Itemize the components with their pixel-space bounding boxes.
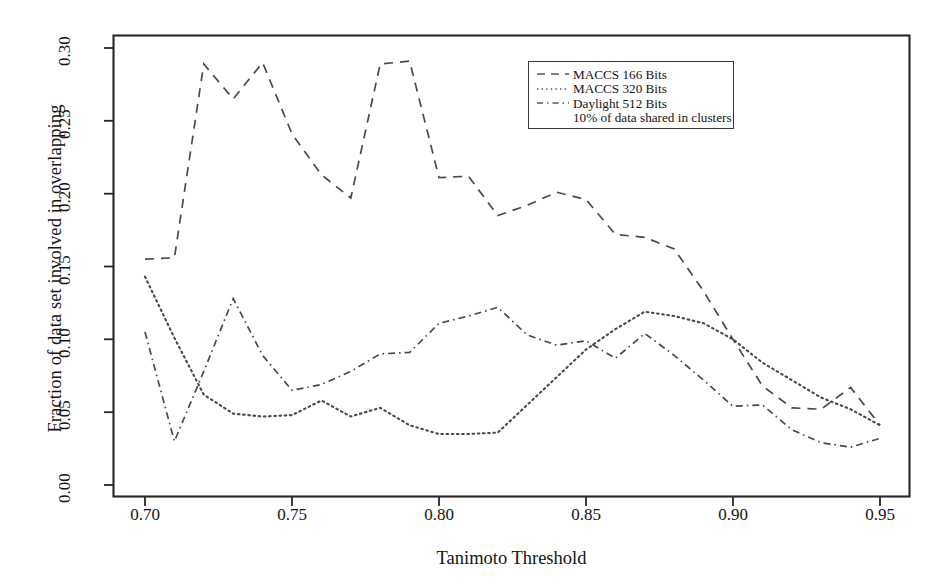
- legend-label-0: MACCS 166 Bits: [571, 68, 667, 81]
- legend-label-3: 10% of data shared in clusters: [571, 111, 732, 124]
- legend-label-1: MACCS 320 Bits: [571, 82, 667, 95]
- dotted-line-key: [535, 83, 571, 95]
- chart-legend: MACCS 166 Bits MACCS 320 Bits Daylight 5…: [528, 61, 734, 129]
- x-axis-ticks: [145, 497, 880, 506]
- legend-entry-maccs-320: MACCS 320 Bits: [529, 82, 733, 97]
- legend-entry-ten-percent-note: 10% of data shared in clusters: [529, 111, 733, 126]
- dashed-line-key: [535, 68, 571, 80]
- legend-entry-daylight-512: Daylight 512 Bits: [529, 96, 733, 111]
- series-line-dashdot: [145, 299, 880, 448]
- dashdot-line-key: [535, 97, 571, 109]
- plot-area: [0, 0, 949, 587]
- chart-figure: Fraction of data set involved in overlap…: [0, 0, 949, 587]
- series-line-dashed: [145, 61, 880, 425]
- y-axis-ticks: [104, 48, 113, 485]
- legend-entry-maccs-166: MACCS 166 Bits: [529, 67, 733, 82]
- legend-label-2: Daylight 512 Bits: [571, 97, 667, 110]
- data-series-layer: [145, 61, 880, 447]
- blank-line-key: [535, 112, 571, 124]
